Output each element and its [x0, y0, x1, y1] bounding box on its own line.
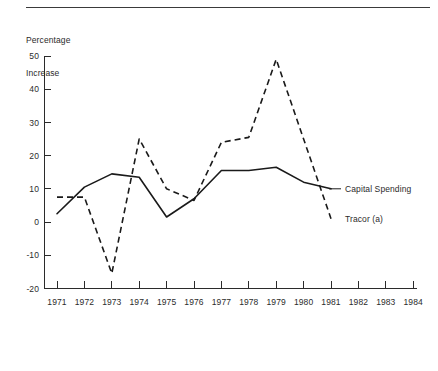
series-annotations: Capital SpendingTracor (a)	[329, 184, 412, 224]
x-axis-tick-label: 1974	[130, 297, 149, 307]
y-axis-tick-label: 50	[29, 51, 39, 61]
x-axis-tick-label: 1975	[157, 297, 176, 307]
x-axis-tick-label: 1980	[294, 297, 313, 307]
y-axis-tick-label: 40	[29, 84, 39, 94]
y-axis-tick-label: 0	[34, 217, 39, 227]
line-chart-plot: -20-1001020304050 1971197219731974197519…	[0, 0, 438, 371]
x-axis-tick-label: 1983	[376, 297, 395, 307]
y-axis-tick-label: -20	[26, 284, 39, 294]
y-axis: -20-1001020304050	[26, 51, 51, 293]
series-line-solid	[57, 167, 331, 217]
series-lines	[57, 59, 331, 273]
x-axis-tick-label: 1982	[349, 297, 368, 307]
y-axis-tick-label: 30	[29, 118, 39, 128]
series-line-dashed	[57, 59, 331, 273]
series-label-capital-spending: Capital Spending	[345, 184, 412, 194]
x-axis: 1971197219731974197519761977197819791980…	[44, 281, 423, 307]
y-axis-tick-label: 10	[29, 184, 39, 194]
x-axis-tick-label: 1976	[184, 297, 203, 307]
x-axis-tick-label: 1973	[102, 297, 121, 307]
x-axis-tick-label: 1979	[267, 297, 286, 307]
x-axis-tick-label: 1978	[239, 297, 258, 307]
series-label-tracor: Tracor (a)	[345, 214, 383, 224]
chart-figure: Percentage Increase -20-1001020304050 19…	[0, 0, 438, 371]
x-axis-tick-label: 1981	[321, 297, 340, 307]
x-axis-tick-label: 1972	[75, 297, 94, 307]
x-axis-tick-label: 1971	[47, 297, 66, 307]
y-axis-tick-label: -10	[26, 250, 39, 260]
y-axis-tick-label: 20	[29, 151, 39, 161]
x-axis-tick-label: 1977	[212, 297, 231, 307]
x-axis-tick-label: 1984	[404, 297, 423, 307]
